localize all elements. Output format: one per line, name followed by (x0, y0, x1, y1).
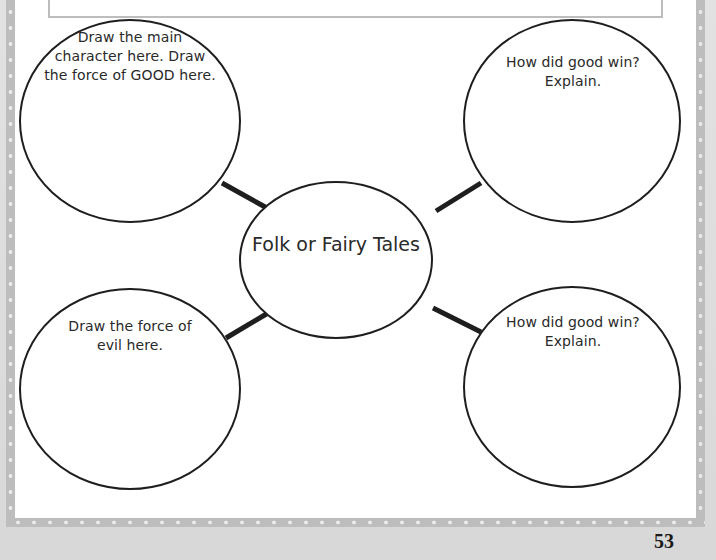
bubble-bottom-left-prompt: Draw the force of evil here. (35, 317, 225, 355)
connector-top-right (436, 183, 481, 211)
prompt-line: Explain. (480, 72, 666, 91)
prompt-line: How did good win? (480, 53, 666, 72)
prompt-line: the force of GOOD here. (30, 66, 230, 85)
connector-top-left (222, 183, 267, 208)
page-number: 53 (654, 530, 674, 553)
center-bubble (240, 182, 432, 338)
prompt-line: Draw the force of (35, 317, 225, 336)
center-title: Folk or Fairy Tales (240, 232, 432, 256)
connector-bottom-left (226, 313, 268, 338)
prompt-line: Explain. (480, 332, 666, 351)
prompt-line: character here. Draw (30, 47, 230, 66)
prompt-line: How did good win? (480, 313, 666, 332)
prompt-line: Draw the main (30, 28, 230, 47)
bubble-top-left-prompt: Draw the main character here. Draw the f… (30, 28, 230, 85)
bubble-top-right-prompt: How did good win? Explain. (480, 53, 666, 91)
bubble-bottom-right-prompt: How did good win? Explain. (480, 313, 666, 351)
connector-bottom-right (433, 308, 481, 332)
prompt-line: evil here. (35, 336, 225, 355)
bubble-top-right (464, 20, 680, 222)
